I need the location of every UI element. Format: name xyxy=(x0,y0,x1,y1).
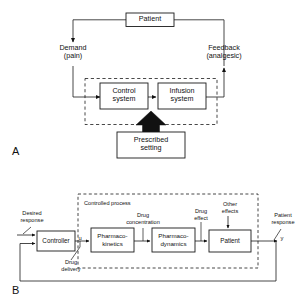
signal-label-desired-response: Desired response xyxy=(6,210,58,223)
thick-arrow-prescribed-setting xyxy=(136,111,166,134)
signal-label-drug-concentration: Drug concentration xyxy=(110,212,176,225)
box-label-patient-b: Patient xyxy=(209,237,251,245)
leader-desired-response xyxy=(23,227,31,234)
link-demand-to-control xyxy=(73,66,100,97)
signal-label-demand: Demand (pain) xyxy=(43,44,103,61)
box-label-prescribed-setting: Prescribed setting xyxy=(117,136,185,152)
box-label-control-system: Control system xyxy=(100,87,148,103)
signal-label-other-effects: Other effects xyxy=(211,201,249,214)
variable-label-y: y xyxy=(278,234,286,242)
variable-label-u: u xyxy=(76,234,84,242)
panel-letter-a: A xyxy=(12,145,19,157)
link-patient-to-demand xyxy=(73,20,126,42)
box-label-pharmacokinetics: Pharmaco- kinetics xyxy=(91,232,134,247)
signal-label-patient-response: Patient response xyxy=(263,212,301,225)
group-label-controlled-process: Controlled process xyxy=(84,200,164,207)
signal-label-feedback: Feedback (analgesic) xyxy=(190,44,258,61)
signal-label-drug-delivery: Drug delivery xyxy=(45,259,97,272)
panel-letter-b: B xyxy=(12,284,19,296)
box-label-patient-a: Patient xyxy=(126,15,174,23)
box-label-controller: Controller xyxy=(37,237,75,245)
figure-container: Patient Demand (pain) Feedback (analgesi… xyxy=(0,0,301,300)
box-label-infusion-system: Infusion system xyxy=(158,87,206,103)
box-label-pharmacodynamics: Pharmaco- dynamics xyxy=(152,232,195,247)
